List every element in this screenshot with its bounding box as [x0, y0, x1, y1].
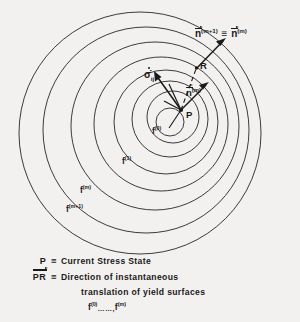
nested-yield-surfaces: [19, 12, 261, 254]
legend: P ≡ Current Stress State PR ≡ Direction …: [0, 255, 300, 312]
vector-tick-c: [169, 110, 181, 128]
point-p-marker: [179, 108, 183, 112]
n-m-plus-1-symbol: n: [195, 28, 201, 39]
legend-text-pr-continuation: translation of yield surfaces: [0, 287, 300, 297]
f-m-plus-1-superscript: (m+1): [69, 203, 83, 209]
legend-relation-pr: ≡: [51, 271, 61, 282]
legend-ellipsis: ……,: [97, 305, 114, 312]
yield-surface-outer: [19, 12, 261, 254]
point-r-marker: [195, 66, 198, 69]
n-m-symbol: n: [186, 87, 192, 98]
n-m-symbol-right: n: [231, 28, 237, 39]
sigma-dot-symbol: σ̇: [144, 70, 151, 80]
legend-surfaces-line: f(0)……,f(m): [0, 301, 300, 312]
n-m-plus-1-superscript: (m+1): [201, 27, 218, 34]
equivalence-sign: ≡: [221, 28, 229, 39]
legend-relation-p: ≡: [51, 255, 61, 266]
sigma-subscript-ij: ij: [151, 75, 154, 82]
pr-vector-symbol: PR: [33, 272, 46, 282]
legend-symbol-p: P: [0, 256, 51, 266]
point-r-label: R: [200, 61, 207, 71]
legend-symbol-pr: PR: [0, 272, 51, 282]
label-f-m-plus-1: f(m+1): [66, 204, 83, 213]
label-sigma-dot-ij: σ̇ij: [144, 70, 154, 82]
label-n-m: n(m): [186, 87, 201, 98]
f-0-superscript: (0): [155, 125, 161, 131]
vector-sigma-dot-ij: [154, 71, 181, 110]
legend-row-p: P ≡ Current Stress State: [0, 255, 300, 266]
n-m-superscript: (m): [192, 87, 201, 93]
legend-f-last-superscript: (m): [118, 301, 126, 307]
legend-text-pr: Direction of instantaneous: [61, 272, 300, 282]
legend-text-p: Current Stress State: [61, 256, 300, 266]
n-m-superscript-right: (m): [237, 27, 247, 34]
f-1-superscript: (1): [125, 155, 131, 161]
label-f-m: f(m): [80, 185, 91, 194]
label-f-0: f(0): [152, 126, 161, 135]
legend-row-pr: PR ≡ Direction of instantaneous: [0, 271, 300, 282]
point-p-label: P: [186, 110, 192, 120]
label-f-1: f(1): [122, 156, 131, 165]
label-n-equivalence: n(m+1) ≡ n(m): [195, 28, 247, 39]
f-m-superscript: (m): [83, 184, 91, 190]
